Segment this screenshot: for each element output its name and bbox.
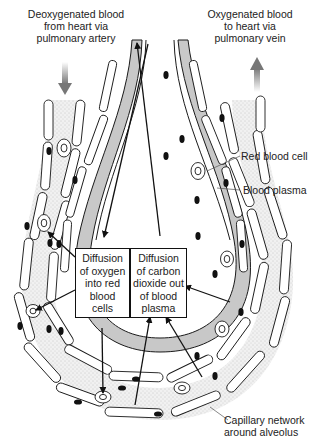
blood-flow-out-arrow-icon xyxy=(250,57,264,92)
air-out-arrow xyxy=(137,43,160,236)
oxygen-diffusion-box: Diffusion of oxygen into red blood cells xyxy=(75,248,130,318)
carbon-dioxide-diffusion-box: Diffusion of carbon dioxide out of blood… xyxy=(130,248,187,318)
pulmonary-artery-label: Deoxygenated blood from heart via pulmon… xyxy=(6,8,146,44)
pulmonary-vein-label: Oxygenated blood to heart via pulmonary … xyxy=(186,8,314,44)
red-blood-cell-label: Red blood cell xyxy=(241,150,308,162)
capillary-network-label: Capillary network around alveolus xyxy=(224,414,305,438)
blood-flow-in-arrow-icon xyxy=(58,62,72,95)
blood-plasma-label: Blood plasma xyxy=(243,184,307,196)
alveolus-capillary-diagram xyxy=(0,0,320,438)
